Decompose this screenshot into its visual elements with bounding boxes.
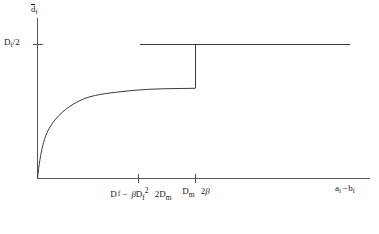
y-axis-label-subscript: f (36, 8, 38, 15)
x-tick-1-fraction: βDf2 2Dm (129, 187, 173, 202)
y-axis-label-main: d (31, 4, 36, 14)
x-tick-label-1-row: Df − βDf2 2Dm (99, 187, 185, 202)
x-tick-1-denominator: 2Dm (153, 189, 174, 199)
x-tick-label-2: Dm 2β (176, 187, 216, 199)
x-tick-1-den-sub: m (166, 193, 172, 202)
x-tick-2-fraction: Dm 2β (180, 187, 212, 199)
x-tick-1-lead: D (110, 190, 117, 199)
figure-container: df Df/2 Df − βDf2 2Dm Dm 2β af−bf (0, 0, 379, 234)
x-tick-1-numerator: βDf2 (129, 189, 150, 199)
y-axis-label: df (31, 4, 38, 14)
curve-rising-branch (38, 88, 196, 178)
x-tick-1-den-coef: 2D (155, 189, 166, 199)
x-tick-2-numerator: Dm (180, 186, 196, 196)
x-axis-label: af−bf (335, 184, 355, 193)
x-axis-label-b-sub: f (353, 187, 355, 194)
plot-canvas (0, 0, 379, 234)
y-tick-label-df-half: Df/2 (4, 38, 20, 47)
y-tick-label-sub: f (11, 41, 13, 48)
y-tick-label-D: D (4, 37, 11, 47)
x-tick-label-1: Df − βDf2 2Dm (99, 187, 185, 202)
y-tick-label-divisor: /2 (13, 37, 20, 47)
x-tick-2-num-sub: m (189, 190, 195, 199)
x-axis-label-a-sub: f (339, 187, 341, 194)
x-tick-2-denominator: 2β (199, 186, 212, 196)
x-tick-1-num-sup: 2 (145, 186, 149, 195)
x-tick-label-2-row: Dm 2β (176, 187, 216, 199)
x-tick-1-operator: − (121, 190, 128, 199)
x-tick-1-lead-sub: f (118, 190, 121, 198)
y-axis-label-dbar: d (31, 4, 36, 14)
x-tick-2-beta: β (205, 186, 209, 196)
